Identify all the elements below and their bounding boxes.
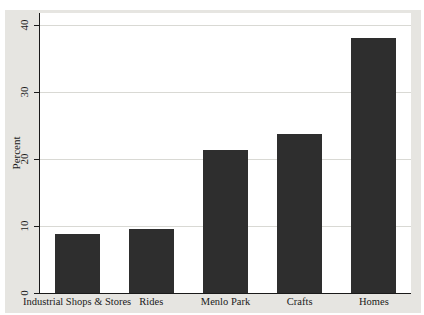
x-tick-label: Menlo Park	[201, 296, 250, 308]
y-axis-line	[39, 13, 40, 294]
y-tick	[34, 226, 39, 227]
bar-4	[277, 134, 322, 293]
chart-background: Percent 010203040 Industrial Shops & Sto…	[5, 10, 421, 313]
bar-1	[55, 234, 100, 293]
y-tick	[34, 92, 39, 93]
x-tick-label: Crafts	[287, 296, 313, 308]
x-tick-label: Industrial Shops & Stores	[23, 296, 131, 308]
plot-area: 010203040	[40, 13, 411, 293]
x-tick-label: Rides	[139, 296, 163, 308]
y-tick-label: 30	[19, 87, 30, 98]
y-tick	[34, 293, 39, 294]
bar-chart-figure: Percent 010203040 Industrial Shops & Sto…	[0, 0, 424, 315]
y-tick	[34, 159, 39, 160]
x-axis-labels: Industrial Shops & StoresRidesMenlo Park…	[40, 296, 411, 310]
x-tick-label: Homes	[359, 296, 389, 308]
gridline	[40, 25, 411, 26]
bar-5	[351, 38, 396, 293]
y-tick-label: 0	[19, 290, 30, 296]
bar-3	[203, 150, 248, 293]
y-tick-label: 10	[19, 221, 30, 232]
y-tick-label: 20	[19, 154, 30, 165]
y-tick-label: 40	[19, 20, 30, 31]
bar-2	[129, 229, 174, 293]
x-axis-line	[39, 293, 411, 294]
y-tick	[34, 25, 39, 26]
